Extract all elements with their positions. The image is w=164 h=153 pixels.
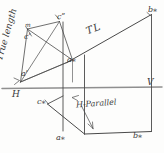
label-b-star-bottom: b⁎ [133,132,142,140]
sketch-canvas: True length TL H-Parallel cʺ cʹ m aʹ a⁎ … [0,0,164,153]
label-m: m [25,22,31,28]
label-c-double-prime: cʺ [57,13,65,21]
true-length-line [67,15,152,63]
label-h-plane: H [12,90,20,99]
label-a-prime: aʹ [21,70,28,78]
label-c-star: c⁎ [37,98,45,106]
true-length-leader-flag [14,78,20,85]
label-a-star-mid: a⁎ [67,56,76,64]
label-b-star-top: b⁎ [148,6,157,14]
label-c-prime: cʹ [24,33,31,41]
aux-diagonal-1 [28,29,73,60]
h-parallel-leader-line [82,106,94,129]
fold-line-hv [2,87,162,89]
label-a-star-bottom: a⁎ [56,134,65,142]
label-v-plane: V [147,78,154,87]
h-view-line-c-up [48,96,64,104]
aux-frame-top-edge [28,22,60,30]
